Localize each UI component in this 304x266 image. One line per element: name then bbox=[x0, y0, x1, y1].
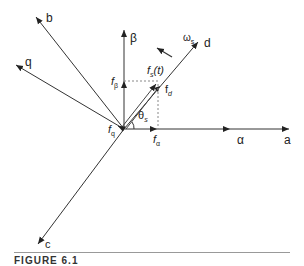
label-d: d bbox=[204, 37, 211, 49]
d-axis bbox=[124, 42, 198, 129]
label-theta-s: θs bbox=[138, 110, 148, 123]
label-f-beta: fβ bbox=[111, 76, 118, 89]
b-axis bbox=[36, 17, 124, 129]
f-d-arrowhead bbox=[154, 86, 160, 92]
label-f-alpha: fα bbox=[153, 134, 160, 147]
label-beta: β bbox=[130, 32, 137, 44]
theta-arc bbox=[132, 122, 134, 129]
label-q: q bbox=[25, 56, 32, 68]
figure-caption: FIGURE 6.1 bbox=[14, 255, 78, 266]
label-omega-s: ωs bbox=[183, 33, 194, 45]
label-f-d: fd bbox=[165, 84, 172, 97]
label-b: b bbox=[46, 12, 53, 24]
f-alpha-arrowhead bbox=[150, 126, 157, 132]
label-a: a bbox=[284, 134, 291, 146]
caption-rule bbox=[14, 252, 290, 253]
c-axis bbox=[38, 129, 124, 244]
label-f-q: fq bbox=[108, 124, 115, 137]
rotation-arrow bbox=[157, 48, 172, 57]
label-alpha: α bbox=[237, 134, 244, 146]
q-axis bbox=[16, 65, 124, 129]
alpha-arrowhead bbox=[223, 126, 230, 132]
f-beta-arrowhead bbox=[121, 81, 127, 88]
label-fs-t: fs(t) bbox=[147, 65, 164, 78]
label-c: c bbox=[45, 239, 51, 250]
